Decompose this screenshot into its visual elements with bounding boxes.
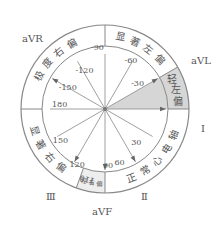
zone-label-extreme-right-deviation-char: 右: [51, 44, 66, 60]
degree-label-120: 120: [70, 160, 85, 169]
zone-label-normal-axis-char: 电: [158, 141, 174, 156]
zone-label-normal-axis-char: 常: [137, 162, 152, 178]
axis-diagram: -90-60-30306090120150180-120-150110极度右偏显…: [0, 0, 224, 232]
lead-label-aVF: aVF: [92, 206, 112, 217]
zone-label-extreme-right-deviation-char: 度: [40, 55, 56, 70]
degree-label-180: 180: [52, 100, 67, 109]
zone-label-marked-left-deviation-char: 显: [114, 31, 126, 44]
degree-label-90: 90: [103, 161, 113, 170]
zone-label-marked-left-deviation-char: 著: [128, 34, 142, 49]
degree-label-30: 30: [131, 138, 141, 147]
center-dot: [103, 107, 107, 111]
degree-label-neg60: -60: [125, 56, 138, 65]
zone-label-marked-left-deviation-char: 偏: [152, 52, 168, 67]
zone-label-marked-left-deviation-char: 左: [141, 41, 156, 57]
zone-label-normal-axis-char: 心: [150, 154, 165, 169]
degree-label-150: 150: [53, 136, 68, 145]
zone-label-normal-axis-char: 正: [125, 171, 138, 185]
axis-spoke: [105, 109, 136, 162]
degree-label-neg150: -150: [59, 83, 77, 92]
zone-label-extreme-right-deviation-char: 偏: [64, 35, 78, 50]
arrowhead-icon: [131, 156, 136, 162]
zone-label-extreme-right-deviation-char: 极: [31, 68, 46, 82]
zone-label-mild-right-deviation-char: 偏: [96, 179, 104, 188]
zone-label-mild-left-deviation-char: 轻: [167, 73, 177, 85]
lead-label-aVL: aVL: [191, 55, 211, 66]
degree-label-neg90: -90: [91, 43, 104, 52]
degree-label-60: 60: [115, 158, 125, 167]
zone-label-mild-left-deviation-char: 偏: [173, 95, 183, 107]
axis-spoke: [105, 109, 153, 137]
degree-label-neg30: -30: [131, 79, 144, 88]
lead-label-I: I: [201, 123, 205, 134]
lead-label-II: Ⅱ: [141, 191, 148, 202]
zone-label-mild-left-deviation-char: 左: [171, 83, 181, 95]
zone-label-marked-right-deviation-char: 显: [28, 124, 41, 137]
lead-label-III: Ⅲ: [46, 191, 56, 202]
zone-label-normal-axis-char: 轴: [166, 128, 181, 142]
lead-label-aVR: aVR: [22, 33, 43, 44]
zone-label-marked-right-deviation-char: 右: [42, 149, 58, 164]
degree-label-neg120: -120: [76, 66, 94, 75]
hexaxial-wheel: -90-60-30306090120150180-120-150110极度右偏显…: [0, 0, 224, 232]
zone-label-marked-right-deviation-char: 著: [33, 137, 48, 152]
arrowhead-icon: [52, 79, 58, 84]
axis-spoke: [57, 109, 105, 137]
axis-spoke: [75, 109, 106, 162]
zone-label-marked-right-deviation-char: 偏: [53, 159, 68, 175]
